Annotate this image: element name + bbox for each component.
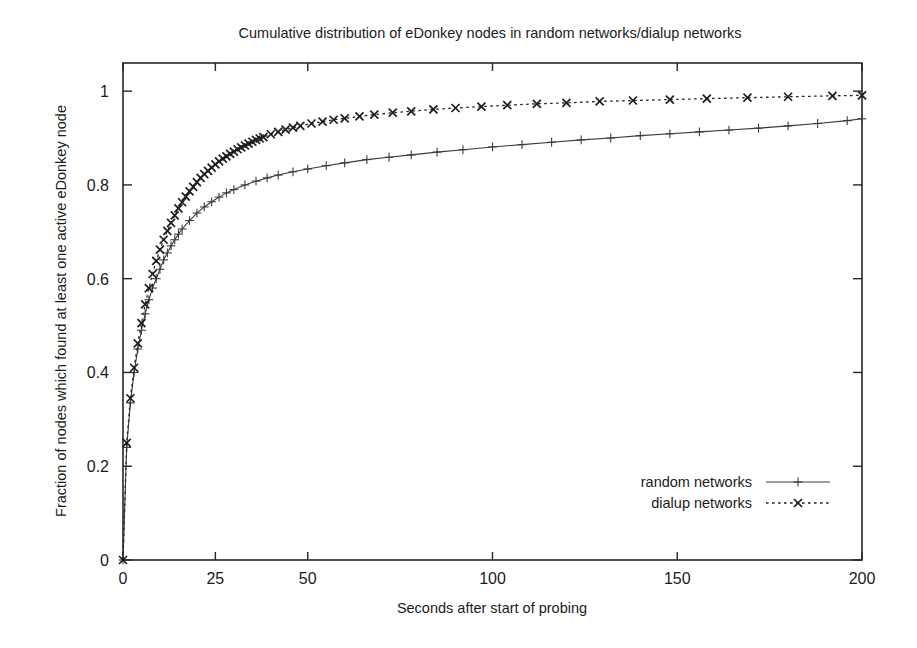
plus-marker [784, 121, 793, 130]
x-axis-title: Seconds after start of probing [397, 600, 587, 616]
cross-marker [274, 128, 282, 136]
legend-entry-random-networks: random networks [641, 474, 830, 490]
cross-marker [149, 270, 157, 278]
plus-marker [303, 165, 312, 174]
plus-marker [322, 161, 331, 170]
cross-marker [152, 257, 160, 265]
plus-marker [289, 167, 298, 176]
series-line [123, 95, 862, 560]
cross-marker [828, 92, 836, 100]
plus-marker [459, 145, 468, 154]
plus-marker [547, 138, 556, 147]
y-tick-label-0.2: 0.2 [87, 458, 109, 475]
series-dialup-networks [119, 91, 866, 564]
plus-marker [433, 148, 442, 157]
y-axis-title: Fraction of nodes which found at least o… [53, 105, 69, 517]
y-axis-tick-labels: 00.20.40.60.81 [87, 83, 109, 569]
plus-marker [725, 126, 734, 135]
cross-marker [666, 96, 674, 104]
plus-marker [215, 193, 224, 202]
chart-title: Cumulative distribution of eDonkey nodes… [239, 25, 742, 41]
legend-label: dialup networks [651, 495, 752, 511]
plus-marker [207, 197, 216, 206]
x-tick-label-200: 200 [849, 570, 876, 587]
x-tick-label-25: 25 [206, 570, 224, 587]
x-tick-label-0: 0 [119, 570, 128, 587]
chart-figure: Cumulative distribution of eDonkey nodes… [0, 0, 917, 648]
cross-marker [156, 246, 164, 254]
plus-marker [156, 265, 165, 274]
cross-marker [282, 126, 290, 134]
plus-marker [843, 116, 852, 125]
cumulative-distribution-line-chart: Cumulative distribution of eDonkey nodes… [0, 0, 917, 648]
plus-marker [606, 134, 615, 143]
cross-marker [267, 130, 275, 138]
y-tick-label-0: 0 [100, 552, 109, 569]
x-tick-label-100: 100 [479, 570, 506, 587]
plus-marker [362, 155, 371, 164]
plus-marker [167, 241, 176, 250]
plus-marker [407, 150, 416, 159]
series-random-networks [119, 114, 867, 564]
x-axis-tick-labels: 02550100150200 [119, 570, 876, 587]
y-tick-label-0.6: 0.6 [87, 271, 109, 288]
plus-marker [518, 140, 527, 149]
plus-marker [794, 478, 803, 487]
plus-marker [858, 114, 867, 123]
plus-marker [813, 119, 822, 128]
series-line [123, 119, 862, 560]
plus-marker [340, 158, 349, 167]
plus-marker [577, 135, 586, 144]
plus-marker [636, 131, 645, 140]
cross-marker [452, 104, 460, 112]
cross-marker [794, 499, 802, 507]
plus-marker [141, 309, 150, 318]
plus-marker [241, 181, 250, 190]
legend-label: random networks [641, 474, 752, 490]
plus-marker [252, 177, 261, 186]
cross-marker [355, 112, 363, 120]
plus-marker [488, 143, 497, 152]
plus-marker [695, 128, 704, 137]
plus-marker [263, 173, 272, 182]
y-tick-label-1: 1 [100, 83, 109, 100]
cross-marker [296, 122, 304, 130]
cross-marker [163, 227, 171, 235]
cross-marker [703, 95, 711, 103]
y-tick-label-0.8: 0.8 [87, 177, 109, 194]
cross-marker [289, 124, 297, 132]
series-layer [119, 91, 867, 564]
series-markers [119, 114, 867, 564]
series-markers [119, 91, 866, 564]
plus-marker [274, 171, 283, 180]
cross-marker [167, 219, 175, 227]
cross-marker [596, 97, 604, 105]
plus-marker [170, 235, 179, 244]
plus-marker [665, 129, 674, 138]
plus-marker [159, 256, 168, 265]
plus-marker [754, 124, 763, 133]
plus-marker [385, 153, 394, 162]
y-tick-label-0.4: 0.4 [87, 364, 109, 381]
chart-legend: random networksdialup networks [641, 474, 830, 511]
x-tick-label-50: 50 [299, 570, 317, 587]
plus-marker [174, 230, 183, 239]
cross-marker [307, 119, 315, 127]
legend-entry-dialup-networks: dialup networks [651, 495, 830, 511]
x-tick-label-150: 150 [664, 570, 691, 587]
cross-marker [160, 236, 168, 244]
